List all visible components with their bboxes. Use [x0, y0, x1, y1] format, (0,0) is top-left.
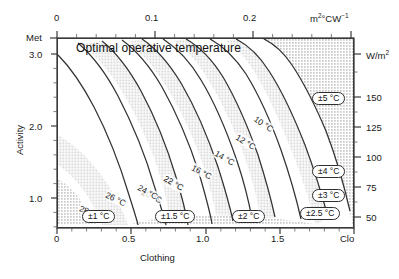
tolerance-pill-1.5: ±1.5 °C	[155, 210, 195, 223]
bottom-tick-0.5: 0.5	[122, 233, 135, 244]
right-minor-ticks	[354, 72, 358, 202]
bottom-tick-1.5: 1.5	[271, 233, 284, 244]
left-major-ticks	[50, 38, 57, 198]
right-tick-125: 125	[366, 122, 382, 133]
contour-plot	[58, 39, 353, 227]
right-unit-wm: W/m	[366, 50, 386, 61]
left-axis-unit: Met	[26, 32, 42, 43]
right-unit-sup: 2	[386, 49, 390, 56]
bottom-axis-unit: Clo	[340, 233, 354, 244]
tolerance-pill-1: ±1 °C	[82, 210, 115, 223]
top-unit-mid: °CW	[322, 13, 342, 24]
chart-root: 0 0.1 0.2 m2°CW−1 Met 3.0 2.0 1.0 Activi…	[0, 0, 399, 279]
top-unit-sup2: −1	[341, 12, 348, 19]
top-unit-m: m	[310, 13, 318, 24]
top-major-ticks	[57, 31, 351, 38]
plot-area: Optimal operative temperature 10 °C 12 °…	[57, 38, 354, 228]
right-tick-150: 150	[366, 92, 382, 103]
tolerance-pill-5: ±5 °C	[312, 92, 345, 105]
y-axis-title: Activity	[14, 125, 25, 155]
tolerance-pill-2: ±2 °C	[232, 210, 265, 223]
tolerance-pill-4: ±4 °C	[312, 165, 345, 178]
right-major-ticks	[354, 54, 361, 217]
right-tick-100: 100	[366, 152, 382, 163]
right-axis-unit: W/m2	[366, 49, 389, 61]
top-tick-0: 0	[54, 12, 59, 23]
left-tick-2.0: 2.0	[29, 121, 42, 132]
tolerance-pill-2.5: ±2.5 °C	[300, 207, 340, 220]
left-tick-1.0: 1.0	[29, 193, 42, 204]
top-axis-unit: m2°CW−1	[310, 12, 349, 24]
tolerance-pill-3: ±3 °C	[312, 189, 345, 202]
top-tick-0.1: 0.1	[145, 12, 158, 23]
right-tick-50: 50	[366, 212, 377, 223]
x-axis-title: Clothing	[140, 252, 175, 263]
left-tick-3.0: 3.0	[29, 49, 42, 60]
bottom-tick-0: 0	[54, 233, 59, 244]
chart-title: Optimal operative temperature	[76, 41, 241, 55]
top-tick-0.2: 0.2	[243, 12, 256, 23]
right-tick-75: 75	[366, 182, 377, 193]
bottom-minor-ticks	[72, 228, 339, 232]
bottom-tick-1.0: 1.0	[196, 233, 209, 244]
